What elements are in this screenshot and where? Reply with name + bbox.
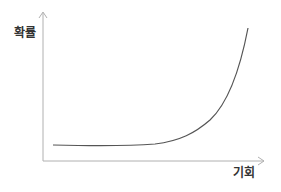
- y-axis: [39, 12, 47, 161]
- x-axis-label: 기회: [233, 163, 255, 180]
- y-axis-label: 확률: [14, 23, 36, 40]
- probability-curve: [53, 28, 248, 146]
- x-axis: [43, 157, 264, 165]
